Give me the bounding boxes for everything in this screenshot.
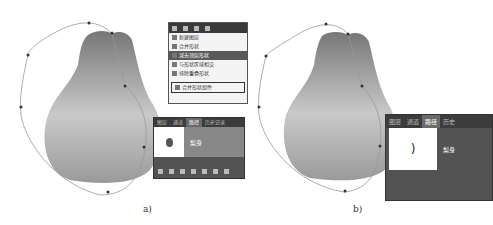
tool-icon[interactable]	[172, 26, 177, 31]
menu-toolbar	[169, 23, 247, 33]
delete-icon[interactable]	[224, 169, 229, 174]
tab-history[interactable]: 历史记录	[202, 118, 228, 127]
tab-paths[interactable]: 路径	[422, 115, 440, 128]
subtract-icon	[172, 53, 177, 58]
path-row[interactable]: ) 梨身	[386, 128, 492, 170]
tab-layers[interactable]: 图层	[154, 118, 170, 127]
path-thumbnail	[154, 127, 184, 157]
tab-history[interactable]: 历史	[440, 115, 458, 128]
caption-a: a)	[143, 204, 152, 214]
tab-paths[interactable]: 路径	[186, 118, 202, 127]
combine-icon	[172, 44, 177, 49]
menu-item-new-layer[interactable]: 新建图层	[169, 33, 247, 42]
menu-item-subtract-front-shape[interactable]: 减去顶层形状	[169, 51, 247, 60]
path-thumbnail: )	[389, 128, 437, 170]
panel-tabs: 图层 通道 路径 历史	[386, 115, 492, 128]
path-shape-icon: )	[411, 142, 416, 156]
panel-footer	[154, 166, 244, 177]
add-mask-icon[interactable]	[202, 169, 207, 174]
panel-tabs: 图层 通道 路径 历史记录	[154, 118, 244, 127]
exclude-icon	[172, 71, 177, 76]
panel-empty-area	[154, 157, 244, 166]
gear-icon[interactable]	[205, 26, 210, 31]
make-work-path-icon[interactable]	[191, 169, 196, 174]
load-selection-icon[interactable]	[180, 169, 185, 174]
tab-layers[interactable]: 图层	[386, 115, 404, 128]
tool-icon[interactable]	[194, 26, 199, 31]
tool-icon[interactable]	[183, 26, 188, 31]
intersect-icon	[172, 62, 177, 67]
new-layer-icon	[172, 35, 177, 40]
new-path-icon[interactable]	[213, 169, 218, 174]
fill-path-icon[interactable]	[158, 169, 163, 174]
paths-panel-a: 图层 通道 路径 历史记录 梨身	[153, 117, 245, 179]
tab-channels[interactable]: 通道	[170, 118, 186, 127]
stroke-path-icon[interactable]	[169, 169, 174, 174]
menu-item-intersect-shapes[interactable]: 与形状区域相交	[169, 60, 247, 69]
menu-item-combine-shapes[interactable]: 合并形状	[169, 42, 247, 51]
path-name: 梨身	[437, 128, 492, 170]
path-operations-menu: 新建图层 合并形状 减去顶层形状 与形状区域相交 排除重叠形状 合并形状组件	[168, 22, 248, 104]
figure-a: 新建图层 合并形状 减去顶层形状 与形状区域相交 排除重叠形状 合并形状组件 图…	[0, 0, 250, 225]
menu-item-merge-components[interactable]: 合并形状组件	[171, 82, 245, 93]
merge-icon	[175, 85, 180, 90]
path-row[interactable]: 梨身	[154, 127, 244, 157]
tab-channels[interactable]: 通道	[404, 115, 422, 128]
caption-b: b)	[353, 204, 362, 214]
path-name: 梨身	[184, 127, 244, 157]
figure-b: 图层 通道 路径 历史 ) 梨身 b)	[250, 0, 491, 225]
pear-shape-icon	[166, 138, 173, 147]
menu-item-exclude-overlap[interactable]: 排除重叠形状	[169, 69, 247, 78]
paths-panel-b: 图层 通道 路径 历史 ) 梨身	[385, 114, 493, 201]
